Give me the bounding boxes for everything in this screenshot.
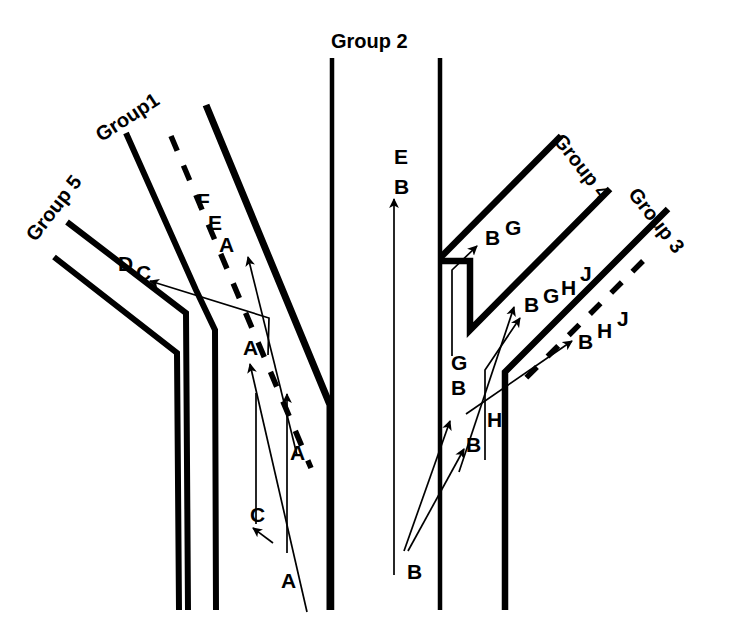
movement-label-stem-A-up: A	[290, 442, 305, 463]
movement-label-loop-G: G	[543, 285, 559, 306]
movement-label-stem-C: C	[250, 504, 265, 525]
group5-lower-edge	[54, 257, 179, 610]
movement-label-g1-F: F	[197, 190, 210, 211]
movement-label-loop-H: H	[561, 277, 576, 298]
movement-label-mid-A: A	[243, 337, 258, 358]
movement-label-left-G: G	[451, 352, 467, 373]
flow-arrow-group1-mid-A	[250, 364, 307, 612]
movement-label-g4-G: G	[505, 217, 521, 238]
road-edges-group5	[54, 222, 188, 610]
movement-label-loop-B: B	[524, 294, 539, 315]
movement-label-g1-A: A	[219, 234, 234, 255]
flow-arrow-stem-C	[253, 528, 273, 543]
group1-right-edge	[206, 105, 330, 610]
flow-arrow-bottom-right	[408, 449, 464, 551]
movement-label-bot-B: B	[407, 561, 422, 582]
movement-label-mid-H: H	[487, 409, 502, 430]
movement-label-g4-B: B	[485, 227, 500, 248]
movement-label-g3-H: H	[597, 320, 612, 341]
movement-label-g3-J: J	[617, 308, 629, 329]
movement-label-g2-E: E	[394, 146, 408, 167]
movement-label-g1-E: E	[208, 212, 222, 233]
movement-label-stem-A-in: A	[281, 570, 296, 591]
group4-outer-edge	[441, 136, 561, 257]
road-group-label-group2: Group 2	[331, 31, 408, 51]
movement-label-loop-J: J	[580, 263, 592, 284]
junction-diagram: Group1Group 2Group 3Group 4Group 5 FEADC…	[0, 0, 732, 644]
movement-label-g5-D: D	[118, 253, 133, 274]
movement-label-mid-B: B	[466, 434, 481, 455]
flow-arrow-group3-BHJ	[466, 341, 572, 414]
movement-label-g5-C: C	[136, 262, 151, 283]
movement-label-left-B: B	[451, 377, 466, 398]
movement-label-g2-B: B	[394, 176, 409, 197]
road-edges-group2	[332, 58, 440, 610]
road-edges-group1	[126, 105, 330, 610]
movement-label-g3-B: B	[578, 331, 593, 352]
